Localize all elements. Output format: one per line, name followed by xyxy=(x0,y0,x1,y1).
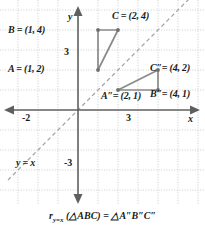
point-label-b-double-prime: B″= (4, 1) xyxy=(150,89,190,99)
mirror-line-label: y = x xyxy=(16,158,35,168)
vertex-c xyxy=(116,28,120,32)
axis-arrowheads xyxy=(4,6,200,204)
y-tick-label-minus-3: -3 xyxy=(64,158,72,168)
point-label-a: A = (1, 2) xyxy=(8,64,44,74)
point-label-c-double-prime: C″= (4, 2) xyxy=(150,63,190,73)
point-label-a-double-prime: A″= (2, 1) xyxy=(101,91,141,101)
point-label-c: C = (2, 4) xyxy=(112,11,149,21)
caption-image: △A″B″C″ xyxy=(111,210,156,221)
reflection-diagram-figure: B = (1, 4) C = (2, 4) A = (1, 2) C″= (4,… xyxy=(0,0,205,234)
caption-equals: = xyxy=(103,210,109,221)
point-label-b: B = (1, 4) xyxy=(8,25,45,35)
caption-operator-subscript: y=x xyxy=(53,216,64,224)
figure-caption: ry=x (△ABC) = △A″B″C″ xyxy=(0,210,205,224)
y-axis-label: y xyxy=(68,12,72,22)
x-tick-label-minus-2: -2 xyxy=(22,113,30,123)
vertex-b xyxy=(96,28,100,32)
y-tick-label-3: 3 xyxy=(64,47,69,57)
x-axis-label: x xyxy=(188,114,193,124)
vertex-a xyxy=(96,68,100,72)
caption-preimage: (△ABC) xyxy=(66,210,101,221)
x-tick-label-3: 3 xyxy=(126,113,131,123)
axis-lines xyxy=(8,10,196,200)
